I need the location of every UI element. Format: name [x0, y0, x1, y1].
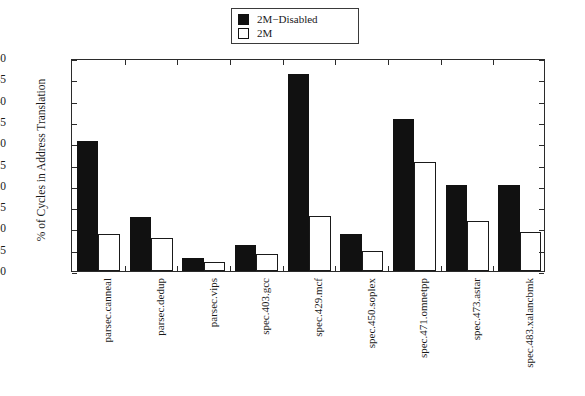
bar-spec-450-soplex-series-2m: [362, 251, 384, 271]
bar-spec-471-omnetpp-series-2m-disabled: [393, 119, 415, 271]
y-tick-right: [539, 230, 544, 231]
legend-swatch-filled-icon: [238, 14, 249, 25]
bar-parsec-dedup-series-2m: [151, 238, 173, 271]
y-tick-right: [539, 145, 544, 146]
y-tick-left: [72, 60, 77, 61]
y-tick-left: [72, 124, 77, 125]
legend-entry-2m: 2M: [238, 26, 352, 40]
y-tick-left: [72, 230, 77, 231]
y-tick-right: [539, 81, 544, 82]
bar-spec-403-gcc-series-2m: [256, 254, 278, 271]
x-tick-top: [283, 60, 284, 65]
y-tick-label: 0.00: [0, 266, 6, 278]
y-tick-label: 0.25: [0, 160, 6, 172]
x-tick-label-spec-450-soplex: spec.450.soplex: [366, 278, 377, 348]
y-tick-left: [72, 167, 77, 168]
y-tick-right: [539, 124, 544, 125]
legend-label-2m: 2M: [257, 27, 272, 39]
x-tick-label-spec-473-astar: spec.473.astar: [471, 278, 482, 340]
y-tick-label: 0.15: [0, 202, 6, 214]
x-tick-bottom: [125, 266, 126, 271]
bar-spec-403-gcc-series-2m-disabled: [235, 245, 257, 271]
y-tick-label: 0.35: [0, 117, 6, 129]
x-tick-bottom: [388, 266, 389, 271]
y-tick-right: [539, 60, 544, 61]
bar-spec-429-mcf-series-2m: [309, 216, 331, 271]
x-tick-label-spec-483-xalancbmk: spec.483.xalancbmk: [524, 278, 535, 368]
chart-legend: 2M−Disabled 2M: [231, 8, 359, 44]
x-tick-label-parsec-vips: parsec.vips: [208, 278, 219, 327]
y-tick-label: 0.40: [0, 96, 6, 108]
y-tick-right: [539, 252, 544, 253]
x-tick-label-parsec-dedup: parsec.dedup: [155, 278, 166, 336]
bar-spec-473-astar-series-2m: [467, 221, 489, 271]
x-tick-bottom: [283, 266, 284, 271]
x-tick-label-spec-429-mcf: spec.429.mcf: [313, 278, 324, 337]
bar-spec-483-xalancbmk-series-2m-disabled: [498, 185, 520, 271]
x-tick-bottom: [441, 266, 442, 271]
y-tick-right: [539, 167, 544, 168]
legend-swatch-hollow-icon: [238, 28, 249, 39]
x-tick-top: [441, 60, 442, 65]
y-tick-left: [72, 145, 77, 146]
x-tick-bottom: [177, 266, 178, 271]
y-tick-right: [539, 209, 544, 210]
x-tick-top: [230, 60, 231, 65]
bar-spec-471-omnetpp-series-2m: [414, 162, 436, 271]
x-tick-top: [177, 60, 178, 65]
bar-chart-figure: 2M−Disabled 2M % of Cycles in Address Tr…: [0, 0, 585, 396]
x-tick-bottom: [335, 266, 336, 271]
y-tick-left: [72, 252, 77, 253]
legend-label-2m-disabled: 2M−Disabled: [257, 13, 318, 25]
bar-spec-450-soplex-series-2m-disabled: [340, 234, 362, 271]
bar-parsec-dedup-series-2m-disabled: [130, 217, 152, 271]
x-tick-top: [388, 60, 389, 65]
bars-layer: [72, 60, 544, 271]
bar-parsec-canneal-series-2m: [98, 234, 120, 271]
bar-parsec-canneal-series-2m-disabled: [77, 141, 99, 271]
x-tick-label-parsec-canneal: parsec.canneal: [102, 278, 113, 342]
bar-parsec-vips-series-2m-disabled: [182, 258, 204, 271]
bar-spec-483-xalancbmk-series-2m: [520, 232, 542, 271]
y-tick-left: [72, 273, 77, 274]
x-tick-label-spec-403-gcc: spec.403.gcc: [260, 278, 271, 335]
x-tick-top: [335, 60, 336, 65]
legend-entry-2m-disabled: 2M−Disabled: [238, 12, 352, 26]
plot-area: [71, 59, 545, 272]
bar-spec-429-mcf-series-2m-disabled: [288, 74, 310, 271]
y-tick-label: 0.05: [0, 245, 6, 257]
y-tick-right: [539, 103, 544, 104]
x-tick-bottom: [230, 266, 231, 271]
y-tick-left: [72, 81, 77, 82]
y-tick-label: 0.45: [0, 75, 6, 87]
y-tick-right: [539, 273, 544, 274]
x-tick-top: [493, 60, 494, 65]
y-tick-left: [72, 188, 77, 189]
y-tick-left: [72, 209, 77, 210]
y-axis-title: % of Cycles in Address Translation: [35, 40, 47, 280]
x-tick-bottom: [493, 266, 494, 271]
x-tick-top: [125, 60, 126, 65]
y-tick-right: [539, 188, 544, 189]
x-tick-label-spec-471-omnetpp: spec.471.omnetpp: [418, 278, 429, 358]
y-tick-left: [72, 103, 77, 104]
y-tick-label: 0.10: [0, 224, 6, 236]
bar-parsec-vips-series-2m: [204, 262, 226, 271]
y-tick-label: 0.20: [0, 181, 6, 193]
y-tick-label: 0.50: [0, 53, 6, 65]
y-tick-label: 0.30: [0, 138, 6, 150]
bar-spec-473-astar-series-2m-disabled: [446, 185, 468, 271]
